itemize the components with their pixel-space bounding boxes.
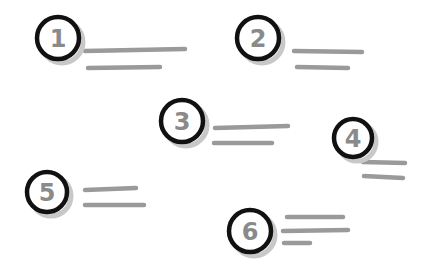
callout-number: 4 (345, 125, 362, 153)
callout-3: 3 (161, 100, 288, 146)
numbered-callouts-diagram: 123456 (0, 0, 428, 272)
placeholder-text-line (85, 188, 136, 190)
callout-4: 4 (334, 119, 405, 178)
callout-2: 2 (237, 17, 362, 68)
callout-number: 2 (250, 25, 267, 53)
callout-1: 1 (37, 17, 185, 68)
placeholder-text-line (297, 67, 348, 68)
placeholder-text-line (85, 49, 185, 51)
placeholder-text-line (283, 230, 348, 231)
callout-number: 5 (39, 179, 56, 207)
callout-number: 6 (242, 218, 259, 246)
callout-number: 3 (174, 108, 191, 136)
callout-number: 1 (50, 25, 67, 53)
callout-6: 6 (229, 210, 348, 256)
placeholder-text-line (363, 162, 405, 163)
placeholder-text-line (88, 67, 160, 68)
placeholder-text-line (364, 176, 403, 178)
placeholder-text-line (215, 126, 288, 128)
callout-5: 5 (27, 172, 144, 216)
placeholder-text-line (294, 51, 362, 52)
